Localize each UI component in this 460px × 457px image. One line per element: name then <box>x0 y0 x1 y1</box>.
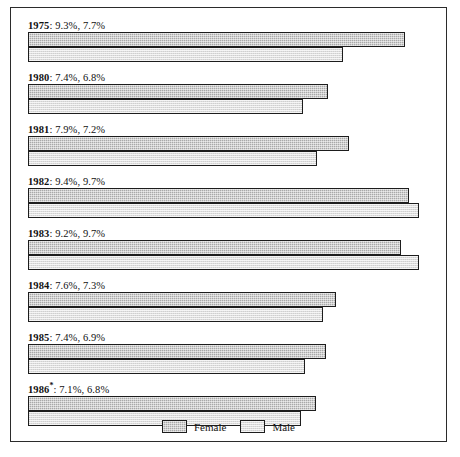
bar-female <box>28 396 316 411</box>
group-values: 7.4%, 6.9% <box>55 332 105 343</box>
bar-male <box>28 203 419 218</box>
bar-male <box>28 99 303 114</box>
group-label: 1982: 9.4%, 9.7% <box>28 172 105 187</box>
group-label: 1983: 9.2%, 9.7% <box>28 224 105 239</box>
group-label: 1986*: 7.1%, 6.8% <box>28 380 109 395</box>
bar-male <box>28 359 305 374</box>
figure: 1975: 9.3%, 7.7% 1980: 7.4%, 6.8% 1981: … <box>0 0 460 457</box>
group-year: 1982 <box>28 176 49 187</box>
group-label: 1981: 7.9%, 7.2% <box>28 120 105 135</box>
legend-item-female: Female <box>162 420 226 433</box>
group-year: 1985 <box>28 332 49 343</box>
bar-female <box>28 344 326 359</box>
group-values: 7.4%, 6.8% <box>55 72 105 83</box>
group-year: 1980 <box>28 72 49 83</box>
bar-female <box>28 136 349 151</box>
bar-female <box>28 84 328 99</box>
group-label: 1980: 7.4%, 6.8% <box>28 68 105 83</box>
group-values: 9.2%, 9.7% <box>55 228 105 239</box>
bar-male <box>28 307 323 322</box>
bar-female <box>28 188 409 203</box>
group-values: 7.9%, 7.2% <box>55 124 105 135</box>
bar-male <box>28 151 317 166</box>
group-year: 1984 <box>28 280 49 291</box>
group-values: 7.6%, 7.3% <box>55 280 105 291</box>
bar-female <box>28 240 401 255</box>
legend-item-male: Male <box>240 420 295 433</box>
plot-area: 1975: 9.3%, 7.7% 1980: 7.4%, 6.8% 1981: … <box>11 8 446 441</box>
legend-label-female: Female <box>194 421 226 433</box>
group-values: 9.4%, 9.7% <box>55 176 105 187</box>
group-values: 9.3%, 7.7% <box>55 20 105 31</box>
legend-label-male: Male <box>272 421 295 433</box>
group-values: 7.1%, 6.8% <box>59 384 109 395</box>
legend-swatch-female-icon <box>162 420 187 433</box>
group-year: 1981 <box>28 124 49 135</box>
group-label: 1975: 9.3%, 7.7% <box>28 16 105 31</box>
group-year: 1983 <box>28 228 49 239</box>
bar-female <box>28 32 405 47</box>
group-year: 1986 <box>28 384 49 395</box>
group-label: 1984: 7.6%, 7.3% <box>28 276 105 291</box>
group-label: 1985: 7.4%, 6.9% <box>28 328 105 343</box>
bar-male <box>28 255 419 270</box>
bar-female <box>28 292 336 307</box>
legend: Female Male <box>11 420 446 433</box>
group-year: 1975 <box>28 20 49 31</box>
bar-male <box>28 47 343 62</box>
legend-swatch-male-icon <box>240 420 265 433</box>
chart-frame: 1975: 9.3%, 7.7% 1980: 7.4%, 6.8% 1981: … <box>10 7 447 442</box>
